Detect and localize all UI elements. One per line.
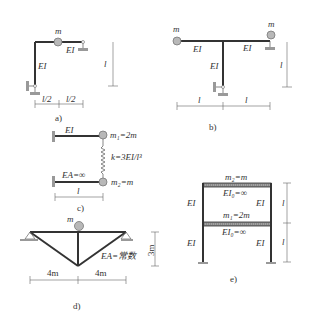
dim-height-a: l	[104, 59, 107, 69]
panel-c: EI m₁=2m k=3EI/l³ EA=∞ m₂=m l c)	[52, 125, 142, 213]
mass-label-d: m	[67, 214, 74, 224]
beam-label-a: EI	[65, 45, 75, 55]
panel-a: m EI EI l/2 l/2 l	[26, 26, 118, 123]
lower-girder-label-e: EI₀=∞	[221, 227, 246, 237]
spring-icon	[101, 139, 105, 180]
dimension-d-horizontal: 4m 4m	[30, 268, 126, 284]
mass-m2-c	[99, 178, 107, 186]
mass-right-label-b: m	[268, 19, 275, 29]
mass-right-b	[267, 31, 275, 39]
dim-length-c: l	[77, 186, 80, 196]
dim-right-b: l	[245, 95, 248, 105]
caption-d: d)	[73, 301, 81, 311]
dimension-d-vertical: 3m	[146, 232, 159, 266]
caption-a: a)	[55, 113, 62, 123]
m2-label-c: m₂=m	[111, 177, 134, 187]
caption-e: e)	[230, 274, 237, 284]
dimension-a-vertical: l	[104, 42, 118, 86]
bottom-bar-label-c: EA=∞	[61, 170, 85, 180]
m1-label-c: m₁=2m	[110, 130, 137, 140]
upper-col-right-label-e: EI	[255, 198, 265, 208]
dim-height-d: 3m	[146, 244, 156, 256]
top-girder-e	[203, 183, 271, 187]
fixed-base-right-icon	[266, 262, 276, 264]
roller-support-icon	[265, 41, 275, 50]
dimension-c: l	[55, 186, 103, 201]
lower-girder-e	[203, 222, 271, 226]
guided-support-icon	[26, 81, 40, 95]
beam-right-label-b: EI	[242, 43, 252, 53]
caption-b: b)	[209, 122, 217, 132]
column-label-a: EI	[37, 61, 47, 71]
left-diagonal-d	[30, 232, 78, 266]
mass-left-label-b: m	[173, 24, 180, 34]
member-label-d: EA=常数	[100, 251, 137, 261]
structural-dynamics-figure: m EI EI l/2 l/2 l	[0, 0, 309, 322]
lower-col-right-label-e: EI	[255, 238, 265, 248]
lower-col-left-label-e: EI	[186, 238, 196, 248]
dimension-a-horizontal: l/2 l/2	[35, 94, 83, 108]
dim-lower-e: l	[282, 237, 285, 247]
dim-height-b: l	[280, 60, 283, 70]
fixed-support-icon	[52, 131, 55, 142]
dimension-e-vertical: l l	[282, 183, 291, 262]
panel-d: m EA=常数 4m 4m 3m d)	[20, 214, 159, 311]
mass-label-a: m	[55, 26, 62, 36]
dim-left-d: 4m	[47, 268, 59, 278]
mass-d	[75, 222, 84, 231]
dimension-b-vertical: l	[280, 42, 292, 87]
guided-support-icon	[213, 82, 228, 96]
panel-b: m m EI EI EI l l l b)	[173, 19, 292, 132]
spring-label-c: k=3EI/l³	[111, 152, 142, 162]
dim-right-d: 4m	[95, 268, 107, 278]
mass-left-b	[173, 37, 181, 45]
dim-left-a: l/2	[42, 94, 52, 104]
mass-m1-c	[99, 131, 107, 139]
fixed-base-left-icon	[198, 262, 208, 264]
dim-upper-e: l	[282, 198, 285, 208]
column-label-b: EI	[209, 61, 219, 71]
panel-e: m₂=m EI₀=∞ EI EI m₁=2m EI₀=∞ EI EI l l e…	[186, 172, 291, 284]
dim-left-b: l	[198, 95, 201, 105]
top-beam-label-c: EI	[64, 125, 74, 135]
beam-left-label-b: EI	[192, 44, 202, 54]
mass-a	[54, 38, 62, 46]
m1-label-e: m₁=2m	[223, 210, 250, 220]
top-girder-label-e: EI₀=∞	[222, 188, 247, 198]
hinge-support-icon	[52, 176, 55, 187]
dimension-b-horizontal: l l	[177, 95, 270, 110]
dim-right-a: l/2	[66, 94, 76, 104]
upper-col-left-label-e: EI	[186, 198, 196, 208]
m2-label-e: m₂=m	[225, 172, 248, 182]
caption-c: c)	[77, 203, 84, 213]
